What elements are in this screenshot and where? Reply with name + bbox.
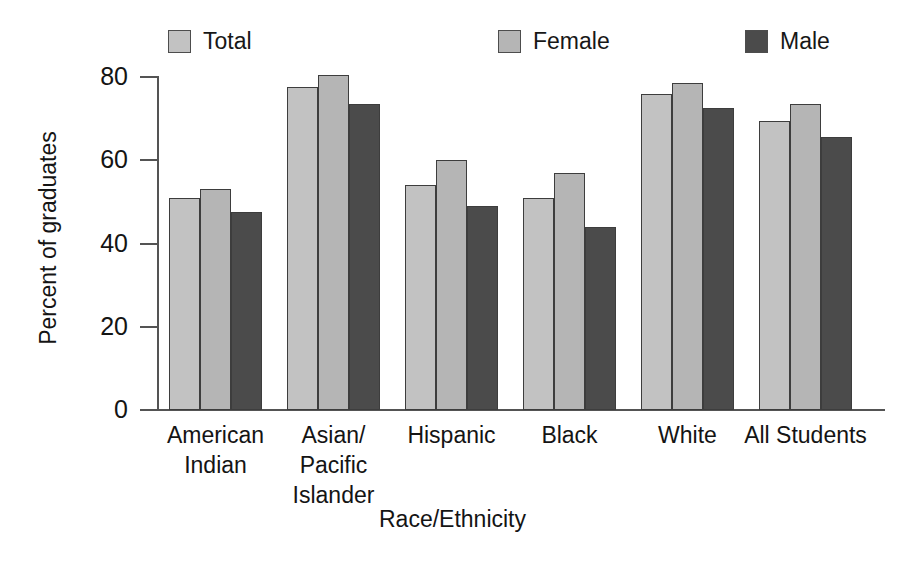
y-axis-tick <box>140 243 158 245</box>
x-axis-title: Race/Ethnicity <box>0 505 905 533</box>
legend-swatch-male-icon <box>745 30 768 53</box>
y-axis-tick-label: 40 <box>100 231 128 256</box>
legend-swatch-female-icon <box>498 30 521 53</box>
bar[interactable] <box>287 87 318 410</box>
y-axis-tick-label: 20 <box>100 314 128 339</box>
legend-item-female[interactable]: Female <box>498 30 610 53</box>
bar[interactable] <box>318 75 349 410</box>
bar-group <box>287 77 380 410</box>
bar[interactable] <box>759 121 790 410</box>
bar[interactable] <box>585 227 616 410</box>
category-label-line: All Students <box>721 420 891 450</box>
bar[interactable] <box>200 189 231 410</box>
bar-group <box>641 77 734 410</box>
legend-label: Total <box>203 30 252 53</box>
bar[interactable] <box>672 83 703 410</box>
bar[interactable] <box>169 198 200 410</box>
bar[interactable] <box>231 212 262 410</box>
bar[interactable] <box>436 160 467 410</box>
category-label-line: Pacific <box>249 450 419 480</box>
y-axis-tick-labels: 020406080 <box>58 0 128 564</box>
y-axis-tick <box>140 326 158 328</box>
bar[interactable] <box>467 206 498 410</box>
y-axis-tick <box>140 159 158 161</box>
legend-label: Female <box>533 30 610 53</box>
bar[interactable] <box>641 94 672 410</box>
bar[interactable] <box>349 104 380 410</box>
y-axis-tick-label: 80 <box>100 64 128 89</box>
legend-swatch-total-icon <box>168 30 191 53</box>
bar-group <box>405 77 498 410</box>
y-axis-title: Percent of graduates <box>34 88 62 388</box>
bar-group <box>169 77 262 410</box>
plot-area <box>157 77 887 410</box>
legend-item-male[interactable]: Male <box>745 30 830 53</box>
bar[interactable] <box>523 198 554 410</box>
bar-group <box>523 77 616 410</box>
y-axis-tick-label: 60 <box>100 147 128 172</box>
chart-legend: TotalFemaleMale <box>0 26 905 66</box>
x-axis-category-label: All Students <box>721 420 891 450</box>
bar[interactable] <box>703 108 734 410</box>
legend-item-total[interactable]: Total <box>168 30 252 53</box>
y-axis-tick <box>140 409 158 411</box>
y-axis-tick-label: 0 <box>114 397 128 422</box>
y-axis-tick <box>140 76 158 78</box>
bar-group <box>759 77 852 410</box>
bar[interactable] <box>821 137 852 410</box>
bar[interactable] <box>790 104 821 410</box>
bar[interactable] <box>405 185 436 410</box>
bar[interactable] <box>554 173 585 410</box>
bar-chart: TotalFemaleMale 020406080 AmericanIndian… <box>0 0 905 564</box>
legend-label: Male <box>780 30 830 53</box>
